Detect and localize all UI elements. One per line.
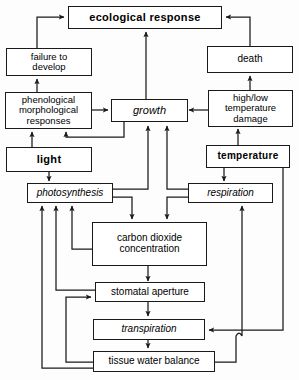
node-ecological-response-label: ecological response bbox=[71, 12, 219, 24]
edge-tissue-to-respiration bbox=[215, 206, 242, 362]
node-transpiration[interactable]: transpiration bbox=[93, 319, 205, 340]
node-high-low-temperature-damage[interactable]: high/low temperature damage bbox=[208, 90, 293, 127]
node-high-low-temperature-damage-label: high/low temperature damage bbox=[211, 93, 290, 124]
edge-tissue-to-stomatal bbox=[66, 297, 93, 362]
plant-response-flow-diagram: ecological response failure to develop d… bbox=[0, 0, 299, 380]
edge-photosynthesis-to-co2 bbox=[113, 197, 132, 219]
node-growth[interactable]: growth bbox=[111, 99, 188, 122]
node-death-label: death bbox=[210, 54, 290, 65]
node-failure-to-develop[interactable]: failure to develop bbox=[6, 48, 92, 76]
node-respiration-label: respiration bbox=[191, 188, 270, 199]
node-temperature-label: temperature bbox=[209, 151, 287, 162]
node-tissue-water-balance[interactable]: tissue water balance bbox=[93, 351, 215, 372]
node-carbon-dioxide-concentration[interactable]: carbon dioxide concentration bbox=[92, 222, 207, 266]
node-light-label: light bbox=[9, 154, 89, 166]
edge-tissue-to-photosynthesis bbox=[42, 206, 93, 368]
edge-stomatal-to-photosynthesis bbox=[56, 206, 95, 290]
edge-respiration-to-co2 bbox=[167, 197, 188, 219]
node-respiration[interactable]: respiration bbox=[188, 183, 273, 203]
node-growth-label: growth bbox=[114, 105, 185, 117]
node-death[interactable]: death bbox=[207, 46, 293, 73]
edge-respiration-to-growth bbox=[167, 126, 188, 189]
node-phenological-morphological-responses-label: phenological morphological responses bbox=[8, 95, 89, 126]
node-stomatal-aperture-label: stomatal aperture bbox=[98, 287, 202, 298]
node-light[interactable]: light bbox=[6, 147, 92, 172]
edge-co2-to-photosynthesis bbox=[72, 206, 92, 249]
node-photosynthesis[interactable]: photosynthesis bbox=[27, 183, 113, 203]
node-failure-to-develop-label: failure to develop bbox=[9, 52, 89, 73]
node-temperature[interactable]: temperature bbox=[206, 145, 290, 168]
edge-death-to-ecological bbox=[226, 17, 250, 46]
node-transpiration-label: transpiration bbox=[96, 324, 202, 335]
node-carbon-dioxide-concentration-label: carbon dioxide concentration bbox=[95, 233, 204, 255]
node-phenological-morphological-responses[interactable]: phenological morphological responses bbox=[5, 92, 92, 129]
node-stomatal-aperture[interactable]: stomatal aperture bbox=[95, 282, 205, 302]
node-photosynthesis-label: photosynthesis bbox=[30, 188, 110, 199]
edge-photosynthesis-to-growth bbox=[113, 126, 148, 189]
node-tissue-water-balance-label: tissue water balance bbox=[96, 356, 212, 367]
edge-failure-to-ecological bbox=[37, 17, 64, 48]
node-ecological-response[interactable]: ecological response bbox=[68, 6, 222, 29]
